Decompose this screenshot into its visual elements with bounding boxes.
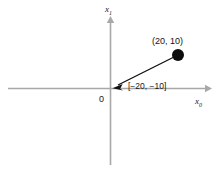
x-axis-arrowhead-icon	[205, 85, 212, 92]
diagram-canvas: (20, 10) [−20, −10] 0 x1 x0	[0, 0, 221, 172]
vector-arrowhead-icon	[113, 84, 124, 91]
x-axis-label-subscript: 0	[199, 102, 202, 108]
vector-diagram-figure: (20, 10) [−20, −10] 0 x1 x0	[0, 0, 221, 172]
y-axis-arrowhead-icon	[107, 16, 114, 23]
point-coordinate-label: (20, 10)	[152, 36, 183, 46]
origin-label: 0	[99, 94, 104, 104]
vector-component-label: [−20, −10]	[128, 81, 166, 91]
y-axis-label-subscript: 1	[109, 10, 112, 16]
data-point-marker	[172, 49, 184, 61]
y-axis-label: x1	[104, 4, 112, 16]
x-axis-label: x0	[194, 96, 202, 108]
